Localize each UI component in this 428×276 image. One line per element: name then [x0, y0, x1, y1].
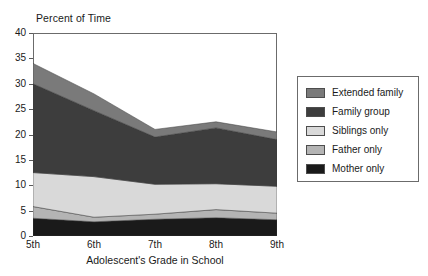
legend-item-label: Siblings only [332, 125, 388, 136]
legend: Extended familyFamily groupSiblings only… [297, 76, 419, 182]
y-tick-label: 10 [0, 180, 26, 190]
x-tick-label: 9th [257, 239, 297, 250]
y-tick-mark [29, 33, 33, 34]
plot-title: Percent of Time [36, 12, 111, 24]
x-tick-label: 5th [13, 239, 53, 250]
y-tick-label: 25 [0, 104, 26, 114]
y-tick-label: 5 [0, 206, 26, 216]
y-tick-mark [29, 236, 33, 237]
y-tick-mark [29, 135, 33, 136]
legend-item[interactable]: Mother only [298, 159, 418, 178]
legend-item[interactable]: Siblings only [298, 121, 418, 140]
y-tick-mark [29, 160, 33, 161]
legend-item-label: Extended family [332, 87, 403, 98]
legend-swatch-icon [306, 164, 325, 174]
y-tick-mark [29, 58, 33, 59]
y-tick-label: 30 [0, 79, 26, 89]
legend-swatch-icon [306, 126, 325, 136]
stacked-area-chart: Percent of Time 0510152025303540 5th6th7… [0, 0, 428, 276]
x-tick-label: 8th [196, 239, 236, 250]
legend-swatch-icon [306, 145, 325, 155]
y-tick-label: 20 [0, 130, 26, 140]
x-tick-label: 6th [74, 239, 114, 250]
y-tick-mark [29, 185, 33, 186]
y-tick-mark [29, 109, 33, 110]
legend-item[interactable]: Father only [298, 140, 418, 159]
legend-item-label: Mother only [332, 163, 384, 174]
legend-swatch-icon [306, 107, 325, 117]
y-tick-label: 15 [0, 155, 26, 165]
legend-item[interactable]: Extended family [298, 83, 418, 102]
legend-item[interactable]: Family group [298, 102, 418, 121]
plot-area [33, 33, 277, 236]
y-tick-label: 35 [0, 53, 26, 63]
x-axis-title: Adolescent's Grade in School [33, 254, 277, 266]
x-tick-label: 7th [135, 239, 175, 250]
legend-item-label: Family group [332, 106, 390, 117]
legend-item-label: Father only [332, 144, 382, 155]
legend-swatch-icon [306, 88, 325, 98]
y-tick-mark [29, 84, 33, 85]
y-tick-label: 40 [0, 28, 26, 38]
y-tick-mark [29, 211, 33, 212]
